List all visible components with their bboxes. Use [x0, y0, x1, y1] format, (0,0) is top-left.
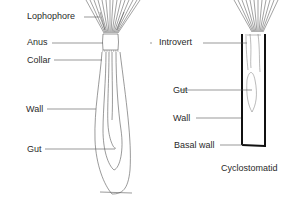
- label-basal-wall: Basal wall: [174, 141, 215, 150]
- label-gut: Gut: [27, 145, 42, 154]
- label-introvert: Introvert: [159, 38, 192, 47]
- basal-wall-shape: [242, 144, 265, 147]
- left-leader-lines: [45, 17, 115, 149]
- tube-wall: [242, 34, 265, 147]
- introvert-tentacles: [234, 0, 278, 32]
- label-collar: Collar: [27, 56, 51, 65]
- lophophore-tentacles: [86, 0, 140, 33]
- label-gut-right: Gut: [173, 86, 188, 95]
- right-zooid-drawing: [234, 0, 278, 147]
- label-wall-right: Wall: [173, 114, 190, 123]
- figure-caption: Cyclostomatid: [221, 164, 278, 173]
- label-wall: Wall: [26, 105, 43, 114]
- label-anus: Anus: [27, 38, 48, 47]
- right-leader-lines: [150, 43, 252, 145]
- bryozoan-diagram: [0, 0, 306, 205]
- left-zooid-drawing: [86, 0, 140, 194]
- label-lophophore: Lophophore: [27, 12, 75, 21]
